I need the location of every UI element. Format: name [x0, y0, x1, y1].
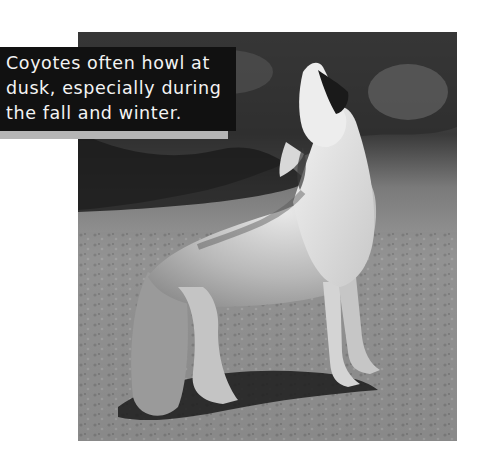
- caption-accent-strip: [0, 131, 228, 139]
- caption-text: Coyotes often howl at dusk, especially d…: [6, 51, 236, 126]
- caption-box: Coyotes often howl at dusk, especially d…: [0, 47, 236, 131]
